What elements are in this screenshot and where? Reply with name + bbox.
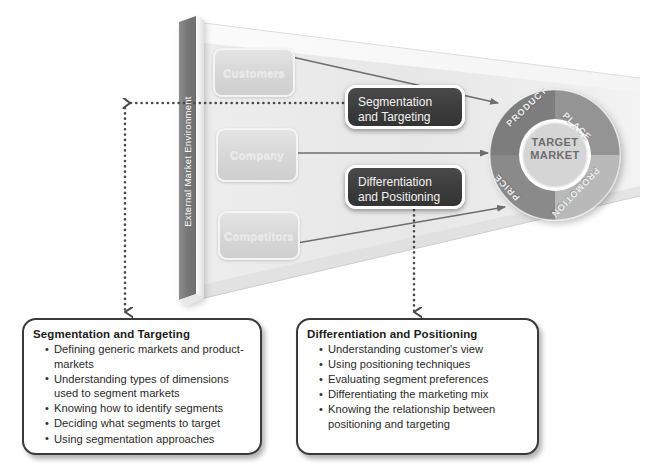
callout-segmentation-and-targeting: Segmentation and Targeting Defining gene…: [22, 318, 262, 455]
list-item: Understanding types of dimensions used t…: [45, 372, 250, 401]
target-market-wheel-labels: PRODUCT PLACE PROMOTION PRICE TARGET MAR…: [490, 90, 620, 220]
wheel-label-promotion: PROMOTION: [549, 166, 602, 220]
box-differentiation-line2: and Positioning: [358, 190, 452, 205]
callout-segmentation-list: Defining generic markets and product-mar…: [33, 342, 250, 446]
wheel-label-product: PRODUCT: [505, 85, 549, 128]
box-customers[interactable]: Customers: [213, 48, 295, 97]
box-company[interactable]: Company: [216, 128, 298, 182]
callout-differentiation-and-positioning: Differentiation and Positioning Understa…: [296, 318, 539, 455]
list-item: Deciding what segments to target: [45, 416, 250, 431]
box-segmentation-line1: Segmentation: [358, 95, 452, 110]
box-segmentation-and-targeting[interactable]: Segmentation and Targeting: [345, 85, 465, 129]
box-differentiation-and-positioning[interactable]: Differentiation and Positioning: [345, 165, 465, 209]
external-market-environment-bar: [179, 16, 204, 305]
list-item: Differentiating the marketing mix: [319, 387, 527, 402]
list-item: Understanding customer's view: [319, 342, 527, 357]
wheel-center-label: TARGET MARKET: [522, 136, 588, 162]
callout-differentiation-list: Understanding customer's view Using posi…: [307, 342, 527, 432]
box-company-label: Company: [230, 149, 284, 161]
list-item: Using positioning techniques: [319, 357, 527, 372]
wheel-label-place: PLACE: [561, 110, 594, 142]
list-item: Using segmentation approaches: [45, 432, 250, 447]
box-segmentation-line2: and Targeting: [358, 110, 452, 125]
box-competitors[interactable]: Competitors: [218, 211, 300, 260]
box-customers-label: Customers: [223, 67, 285, 79]
wheel-center-line2: MARKET: [522, 149, 588, 162]
list-item: Knowing how to identify segments: [45, 401, 250, 416]
list-item: Defining generic markets and product-mar…: [45, 342, 250, 371]
wheel-label-price: PRICE: [491, 172, 521, 203]
list-item: Knowing the relationship between positio…: [319, 402, 527, 431]
list-item: Evaluating segment preferences: [319, 372, 527, 387]
diagram-canvas: External Market Environment Customers Co…: [0, 0, 649, 474]
box-differentiation-line1: Differentiation: [358, 175, 452, 190]
wheel-center-line1: TARGET: [522, 136, 588, 149]
callout-segmentation-heading: Segmentation and Targeting: [33, 328, 250, 340]
callout-differentiation-heading: Differentiation and Positioning: [307, 328, 527, 340]
box-competitors-label: Competitors: [224, 230, 294, 242]
